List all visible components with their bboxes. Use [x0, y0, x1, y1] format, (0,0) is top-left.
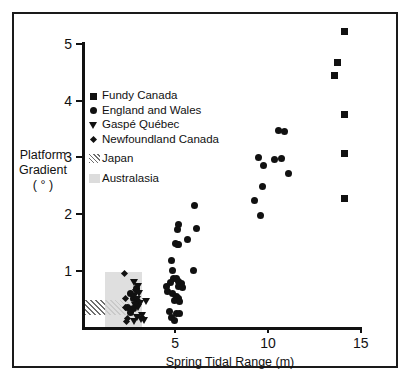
data-point	[259, 183, 266, 190]
x-tick-label-15: 15	[346, 336, 376, 350]
data-point	[331, 72, 338, 79]
data-point	[257, 212, 264, 219]
x-tick-10	[267, 327, 269, 333]
data-point	[334, 59, 341, 66]
x-tick-5	[174, 327, 176, 333]
data-point	[174, 226, 181, 233]
data-point	[130, 318, 138, 325]
legend-label: England and Wales	[88, 103, 238, 118]
y-axis-line	[82, 42, 85, 329]
data-point	[190, 267, 197, 274]
x-axis-title: Spring Tidal Range (m)	[120, 355, 340, 369]
x-tick-label-10: 10	[253, 336, 283, 350]
y-axis-title: Platform Gradient ( ° )	[6, 148, 80, 193]
legend-item-4[interactable]: Japan	[88, 151, 238, 166]
y-tick-label-5: 5	[50, 37, 72, 51]
triangle-down-marker	[88, 117, 101, 132]
data-point	[285, 170, 292, 177]
data-point	[341, 195, 348, 202]
square-marker	[88, 88, 101, 103]
y-tick-2	[76, 213, 82, 215]
data-point	[255, 154, 262, 161]
y-tick-label-4: 4	[50, 94, 72, 108]
legend-label: Newfoundland Canada	[88, 132, 238, 147]
data-point	[168, 257, 175, 264]
legend-item-0[interactable]: Fundy Canada	[88, 88, 238, 103]
data-point	[184, 236, 191, 243]
data-point	[175, 241, 182, 248]
hatched-swatch	[88, 151, 101, 166]
data-point	[191, 202, 198, 209]
data-point	[140, 317, 148, 324]
data-point	[169, 267, 176, 274]
data-point	[341, 28, 348, 35]
legend-item-2[interactable]: Gaspé Québec	[88, 117, 238, 132]
scatter-plot: 12345 51015 Platform Gradient ( ° ) Spri…	[0, 0, 415, 382]
legend-label: Gaspé Québec	[88, 117, 238, 132]
data-point	[129, 306, 137, 313]
legend-label: Japan	[88, 151, 238, 166]
diamond-marker	[88, 132, 101, 147]
legend-item-1[interactable]: England and Wales	[88, 103, 238, 118]
y-tick-label-1: 1	[50, 264, 72, 278]
legend-item-3[interactable]: Newfoundland Canada	[88, 132, 238, 147]
circle-marker	[88, 103, 101, 118]
y-tick-5	[76, 43, 82, 45]
x-tick-label-5: 5	[160, 336, 190, 350]
data-point	[176, 310, 183, 317]
legend-label: Fundy Canada	[88, 88, 238, 103]
data-point	[341, 150, 348, 157]
x-axis-line	[82, 327, 361, 330]
data-point	[179, 284, 186, 291]
data-point	[341, 111, 348, 118]
data-point	[171, 317, 178, 324]
y-tick-label-2: 2	[50, 207, 72, 221]
legend-label: Australasia	[88, 171, 238, 186]
y-tick-1	[76, 270, 82, 272]
y-axis-title-line-1: Platform	[6, 148, 80, 163]
x-tick-15	[360, 327, 362, 333]
data-point	[260, 162, 267, 169]
data-point	[278, 155, 285, 162]
y-axis-title-line-3: ( ° )	[6, 178, 80, 193]
y-tick-4	[76, 100, 82, 102]
data-point	[193, 225, 200, 232]
y-axis-title-line-2: Gradient	[6, 163, 80, 178]
chart-legend: Fundy CanadaEngland and WalesGaspé Québe…	[88, 88, 238, 186]
legend-item-5[interactable]: Australasia	[88, 171, 238, 186]
data-point	[271, 156, 278, 163]
grey-swatch	[88, 171, 101, 186]
data-point	[281, 128, 288, 135]
data-point	[176, 298, 183, 305]
data-point	[251, 197, 258, 204]
